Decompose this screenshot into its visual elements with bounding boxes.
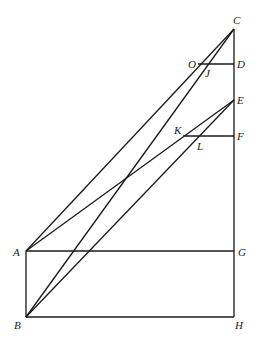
label-H: H [234,319,244,331]
label-E: E [236,94,244,106]
label-O: O [188,58,196,70]
label-F: F [236,130,244,142]
label-G: G [238,246,246,258]
segment-AE [26,100,234,251]
label-A: A [12,246,20,258]
label-L: L [196,140,203,152]
label-B: B [14,319,21,331]
label-D: D [236,58,245,70]
label-J: J [205,67,211,79]
segment-BC [26,29,234,317]
label-K: K [173,124,182,136]
segment-BE [26,100,234,317]
geometry-diagram: C O J D E K L F A G B H [0,0,260,348]
label-C: C [233,14,241,26]
